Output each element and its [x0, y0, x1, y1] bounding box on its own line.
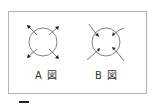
figure-b-label: B 図: [95, 67, 118, 82]
figure-a-label: A 図: [35, 67, 58, 82]
figure-a-outward-arrows-icon: [22, 20, 64, 64]
cropped-text-fragment: [19, 101, 29, 103]
figure-b-inward-arrows-icon: [84, 20, 128, 64]
